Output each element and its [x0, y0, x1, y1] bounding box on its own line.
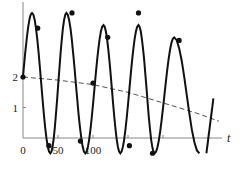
x-axis-label: t — [227, 131, 231, 145]
data-point — [20, 74, 25, 79]
data-point — [78, 138, 83, 143]
data-point — [46, 143, 51, 148]
data-point — [105, 35, 110, 40]
x-tick-label: 0 — [20, 144, 26, 156]
y-tick-label: 1 — [13, 102, 19, 114]
chart: 050100 12 t — [0, 0, 243, 169]
data-point — [177, 38, 182, 43]
series-group — [20, 10, 219, 155]
data-point — [35, 26, 40, 31]
data-point — [90, 81, 95, 86]
data-point — [136, 10, 141, 15]
data-point — [69, 10, 74, 15]
oscillation-tail — [206, 98, 213, 153]
data-point — [127, 143, 132, 148]
data-point — [150, 151, 155, 156]
oscillation-line — [23, 13, 199, 153]
y-tick-label: 2 — [13, 71, 19, 83]
x-tick-label: 50 — [53, 144, 65, 156]
